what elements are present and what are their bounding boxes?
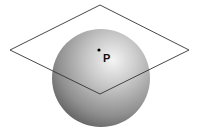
point-p-label: P: [103, 52, 110, 64]
point-p-marker: [97, 48, 100, 51]
tangent-plane-diagram: P: [0, 0, 198, 138]
